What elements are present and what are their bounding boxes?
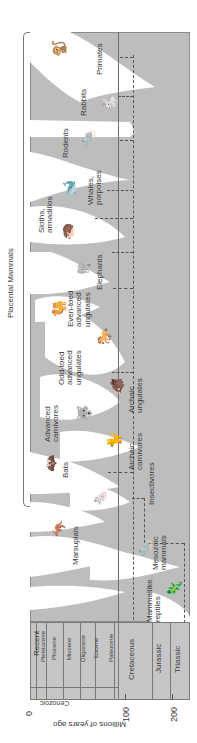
connector (112, 372, 133, 373)
whale-icon: 🐋 (61, 180, 77, 197)
mesozoic-mammal-icon: 🐀 (136, 540, 152, 557)
insectivore-icon: 🐁 (91, 490, 107, 507)
label-even-toed: Even-toedadvancedungulates (67, 291, 92, 327)
connector (107, 190, 133, 191)
connector (132, 498, 144, 499)
label-mammallike-reptiles: Mammallikereptiles (146, 579, 163, 622)
elephant-icon: 🐘 (76, 258, 92, 275)
period-cretaceous: Cretaceous (128, 639, 136, 680)
rodent-icon: 🐀 (79, 130, 95, 147)
label-archaic-carnivores: Archaiccarnivores (128, 433, 145, 470)
label-insectivores: Insectivores (148, 462, 156, 505)
epoch-pliocene: Pliocene (51, 637, 57, 660)
label-archaic-ungulates: Archaicungulates (128, 378, 145, 413)
axis-label: Millions of years ago (53, 720, 126, 729)
placental-mammals-brace (23, 32, 30, 507)
rabbit-icon: 🐇 (101, 95, 117, 112)
connector (108, 472, 133, 473)
archaic-carnivore-icon: 🐈 (106, 432, 122, 449)
axis-tick-200: 200 (170, 707, 179, 722)
period-jurassic: Jurassic (155, 644, 163, 673)
epoch-paleocene: Paleocene (108, 634, 114, 662)
connector (113, 288, 133, 289)
horse-icon: 🐎 (96, 328, 112, 345)
epoch-miocene: Miocene (66, 637, 72, 660)
label-elephants: Elephants (96, 254, 104, 290)
epoch-pleistocene: Pleistocene (40, 631, 46, 662)
ancestry-dashed-line (133, 55, 134, 655)
connector (118, 96, 133, 97)
era-cenozoic: Cenozoic (40, 700, 69, 707)
label-primates: Primates (96, 43, 104, 75)
label-whales: Whales,porpoises (87, 170, 104, 205)
tick-200 (172, 694, 173, 700)
label-rabbits: Rabbits (80, 89, 88, 116)
connector (144, 498, 145, 543)
connector (120, 57, 133, 58)
connector (184, 543, 185, 623)
armadillo-icon: 🦔 (59, 223, 75, 240)
kangaroo-icon: 🦘 (51, 520, 67, 537)
advanced-carnivore-icon: 🐺 (76, 405, 92, 422)
period-triassic: Triassic (174, 646, 182, 673)
epoch-eocene: Eocene (93, 638, 99, 658)
label-marsupials: Marsupials (72, 526, 80, 565)
connector (95, 218, 133, 219)
mammallike-reptile-icon: 🦎 (166, 580, 182, 597)
camel-icon: 🐫 (51, 300, 67, 317)
bat-icon: 🦇 (43, 455, 59, 472)
label-rodents: Rodents (62, 128, 70, 158)
label-mesozoic-mammals: Mesozoicmammals (152, 535, 169, 570)
label-advanced-carnivores: Advancedcarnivores (44, 405, 61, 442)
placental-mammals-label: Placental Mammals (7, 248, 15, 318)
cenozoic-divider (31, 687, 119, 688)
primate-icon: 🐒 (51, 40, 67, 57)
epoch-oligocene: Oligocene (80, 635, 86, 662)
connector (112, 252, 133, 253)
axis-tick-0: 0 (25, 711, 34, 716)
tick-100 (125, 694, 126, 700)
label-sloths: Sloths,armadillos (38, 197, 55, 233)
connector (120, 140, 133, 141)
label-bats: Bats (62, 462, 70, 478)
label-odd-toed: Odd-toedadvancedungulates (58, 350, 83, 385)
archaic-ungulate-icon: 🐗 (109, 378, 125, 395)
cenozoic-cretaceous-boundary (118, 32, 119, 700)
